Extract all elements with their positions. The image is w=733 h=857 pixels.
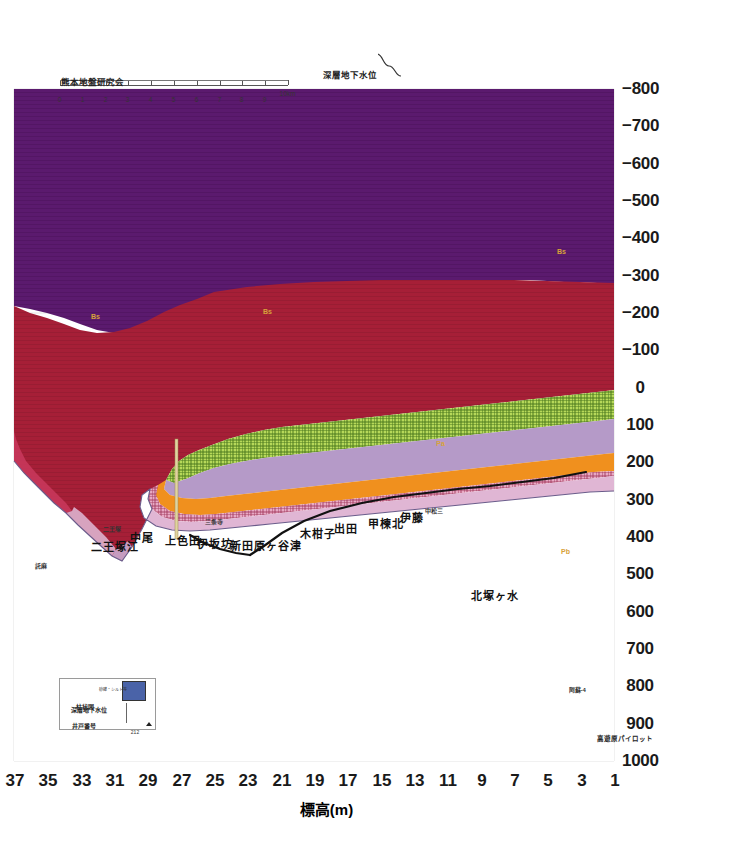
elevation-tick-neg200: −200 bbox=[622, 303, 658, 323]
distance-tick-7: 7 bbox=[501, 771, 529, 791]
annotation-takayubaru-pilot: 高遊原パイロット bbox=[597, 733, 653, 743]
scale-label-4: 4 bbox=[149, 96, 153, 103]
distance-tick-5: 5 bbox=[534, 771, 562, 791]
geological-cross-section-figure: Pa Pb Bs Bs Bs 託麻 二王塚江 二王塚 中尾 上色田 伊坂坊 三条… bbox=[0, 0, 733, 857]
scale-label-9: 9 bbox=[263, 96, 267, 103]
elevation-axis-title: 標高(m) bbox=[300, 798, 353, 819]
rotation-wrapper: Pa Pb Bs Bs Bs 託麻 二王塚江 二王塚 中尾 上色田 伊坂坊 三条… bbox=[0, 0, 733, 857]
legend-well-number-title: 井戸番号 bbox=[72, 721, 96, 730]
elevation-tick-700: 700 bbox=[622, 639, 658, 659]
scale-label-0: 0 bbox=[58, 96, 62, 103]
distance-tick-33: 33 bbox=[68, 771, 96, 791]
groundwater-legend: 深層地下水位 bbox=[330, 0, 420, 89]
distance-tick-29: 29 bbox=[134, 771, 162, 791]
place-label-nittabaru: 新田原ヶ谷津 bbox=[230, 537, 302, 553]
elevation-tick-neg800: −800 bbox=[622, 79, 658, 99]
unit-label-bs-upper: Bs bbox=[557, 248, 566, 255]
place-label-ideta: 出田 bbox=[334, 520, 358, 536]
place-label-kabarakita: 甲楝北 bbox=[368, 515, 404, 531]
distance-tick-31: 31 bbox=[101, 771, 129, 791]
elevation-tick-900: 900 bbox=[622, 714, 658, 734]
distance-tick-19: 19 bbox=[301, 771, 329, 791]
groundwater-legend-symbol bbox=[378, 45, 404, 85]
distance-tick-25: 25 bbox=[201, 771, 229, 791]
distance-tick-1: 1 bbox=[601, 771, 629, 791]
cross-section-svg bbox=[14, 89, 614, 761]
scale-label-2: 2 bbox=[103, 96, 107, 103]
distance-tick-11: 11 bbox=[434, 771, 462, 791]
elevation-tick-200: 200 bbox=[622, 452, 658, 472]
figure-page: Pa Pb Bs Bs Bs 託麻 二王塚江 二王塚 中尾 上色田 伊坂坊 三条… bbox=[0, 0, 733, 857]
legend-box: 井戸番号 深層地下水位 柱状図 212 砂礫・シルト等 bbox=[59, 678, 156, 730]
scale-label-7: 7 bbox=[217, 96, 221, 103]
legend-marker-triangle bbox=[146, 722, 152, 726]
place-label-sanjoji: 三条寺 bbox=[205, 517, 223, 526]
unit-label-bs-lower: Bs bbox=[91, 313, 100, 320]
scale-label-6: 6 bbox=[194, 96, 198, 103]
elevation-tick-800: 800 bbox=[622, 676, 658, 696]
credit-label: 熊本地盤研究会 bbox=[61, 75, 124, 87]
unit-label-pa: Pa bbox=[436, 440, 445, 447]
scale-label-10: 10km bbox=[280, 90, 296, 97]
unit-label-bs-middle: Bs bbox=[263, 308, 272, 315]
elevation-tick-600: 600 bbox=[622, 602, 658, 622]
distance-tick-17: 17 bbox=[334, 771, 362, 791]
distance-tick-15: 15 bbox=[368, 771, 396, 791]
plot-area: Pa Pb Bs Bs Bs 託麻 二王塚江 二王塚 中尾 上色田 伊坂坊 三条… bbox=[14, 89, 614, 761]
place-label-nakamatsu: 中松三 bbox=[425, 506, 443, 515]
elevation-tick-100: 100 bbox=[622, 415, 658, 435]
legend-column-title: 柱状図 bbox=[76, 702, 94, 711]
elevation-tick-neg400: −400 bbox=[622, 228, 658, 248]
scale-label-5: 5 bbox=[172, 96, 176, 103]
elevation-tick-500: 500 bbox=[622, 564, 658, 584]
elevation-tick-300: 300 bbox=[622, 490, 658, 510]
scale-label-1: 1 bbox=[80, 96, 84, 103]
elevation-tick-0: 0 bbox=[622, 378, 658, 398]
place-label-kikoji: 木柑子 bbox=[300, 525, 336, 541]
borehole-marker bbox=[175, 439, 178, 539]
place-label-takuma: 託麻 bbox=[35, 561, 47, 570]
elevation-tick-neg500: −500 bbox=[622, 191, 658, 211]
elevation-tick-neg100: −100 bbox=[622, 340, 658, 360]
scale-tick-10 bbox=[288, 80, 289, 85]
elevation-tick-1000: 1000 bbox=[622, 751, 658, 771]
place-label-ito: 伊藤 bbox=[400, 509, 424, 525]
scale-label-8: 8 bbox=[240, 96, 244, 103]
groundwater-legend-label: 深層地下水位 bbox=[323, 68, 377, 80]
elevation-tick-neg700: −700 bbox=[622, 116, 658, 136]
distance-tick-13: 13 bbox=[401, 771, 429, 791]
place-label-isakabo: 伊坂坊 bbox=[197, 535, 233, 551]
place-label-kitatsukagamizu: 北塚ヶ水 bbox=[471, 587, 519, 603]
distance-tick-3: 3 bbox=[568, 771, 596, 791]
unit-label-pb: Pb bbox=[561, 548, 570, 555]
distance-tick-9: 9 bbox=[468, 771, 496, 791]
elevation-tick-neg600: −600 bbox=[622, 154, 658, 174]
distance-tick-23: 23 bbox=[234, 771, 262, 791]
elevation-tick-neg300: −300 bbox=[622, 266, 658, 286]
place-label-kamiiroda: 上色田 bbox=[165, 532, 201, 548]
place-label-niozuka: 二王塚 bbox=[103, 524, 121, 533]
place-label-aso4: 阿蘇-4 bbox=[569, 685, 586, 694]
distance-tick-37: 37 bbox=[1, 771, 29, 791]
scale-label-3: 3 bbox=[126, 96, 130, 103]
legend-well-number-value: 212 bbox=[131, 729, 139, 735]
place-label-nakao: 中尾 bbox=[130, 529, 154, 545]
distance-tick-27: 27 bbox=[168, 771, 196, 791]
distance-tick-21: 21 bbox=[268, 771, 296, 791]
elevation-tick-400: 400 bbox=[622, 527, 658, 547]
distance-tick-35: 35 bbox=[34, 771, 62, 791]
legend-connector-line bbox=[126, 703, 127, 723]
legend-column-caption: 砂礫・シルト等 bbox=[99, 686, 127, 692]
